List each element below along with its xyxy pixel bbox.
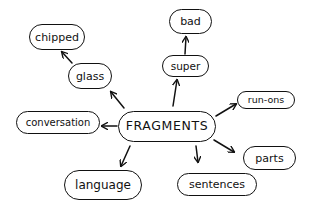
node-label: conversation [26,118,91,128]
node-label: chipped [35,32,79,43]
arrow-center-to-runons [216,104,236,116]
node-label: parts [255,153,283,164]
arrow-center-to-super [173,80,177,106]
arrow-center-to-language [121,146,130,166]
node-label: run-ons [248,95,284,105]
node-bad: bad [169,9,212,34]
node-label: FRAGMENTS [126,120,208,133]
node-conversation: conversation [16,111,100,134]
node-label: bad [180,16,201,27]
node-label: super [171,61,201,72]
node-label: sentences [189,179,245,190]
arrow-center-to-glass [111,92,124,108]
node-sentences: sentences [177,173,257,196]
node-glass: glass [68,63,112,89]
central-node-fragments: FRAGMENTS [118,111,216,142]
node-super: super [162,55,209,77]
node-chipped: chipped [29,24,85,50]
arrow-center-to-sentences [196,146,198,162]
node-label: glass [76,71,104,82]
node-language: language [64,170,142,200]
node-run-ons: run-ons [237,91,295,109]
arrow-glass-to-chipped [62,52,72,63]
arrow-super-to-bad [185,37,186,54]
node-label: language [75,179,131,191]
node-parts: parts [243,146,296,170]
arrow-center-to-parts [214,140,234,152]
